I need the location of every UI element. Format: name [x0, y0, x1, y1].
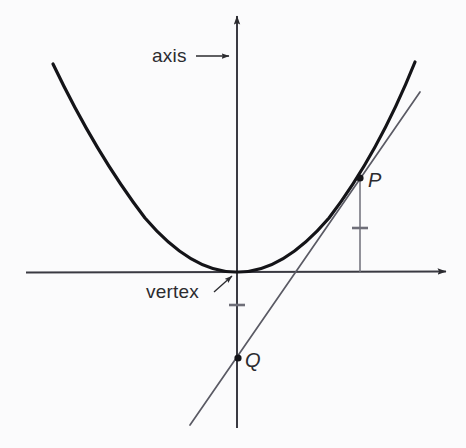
vertex-leader-line [214, 276, 232, 292]
axis-label: axis [152, 46, 187, 65]
point-p-label: P [368, 170, 381, 190]
point-p-marker [356, 174, 363, 181]
parabola-diagram: axis vertex P Q [0, 0, 466, 448]
secant-line-pq [190, 92, 420, 425]
diagram-canvas [0, 0, 466, 448]
point-q-marker [234, 354, 241, 361]
point-q-label: Q [245, 350, 261, 370]
vertex-label: vertex [146, 282, 199, 301]
